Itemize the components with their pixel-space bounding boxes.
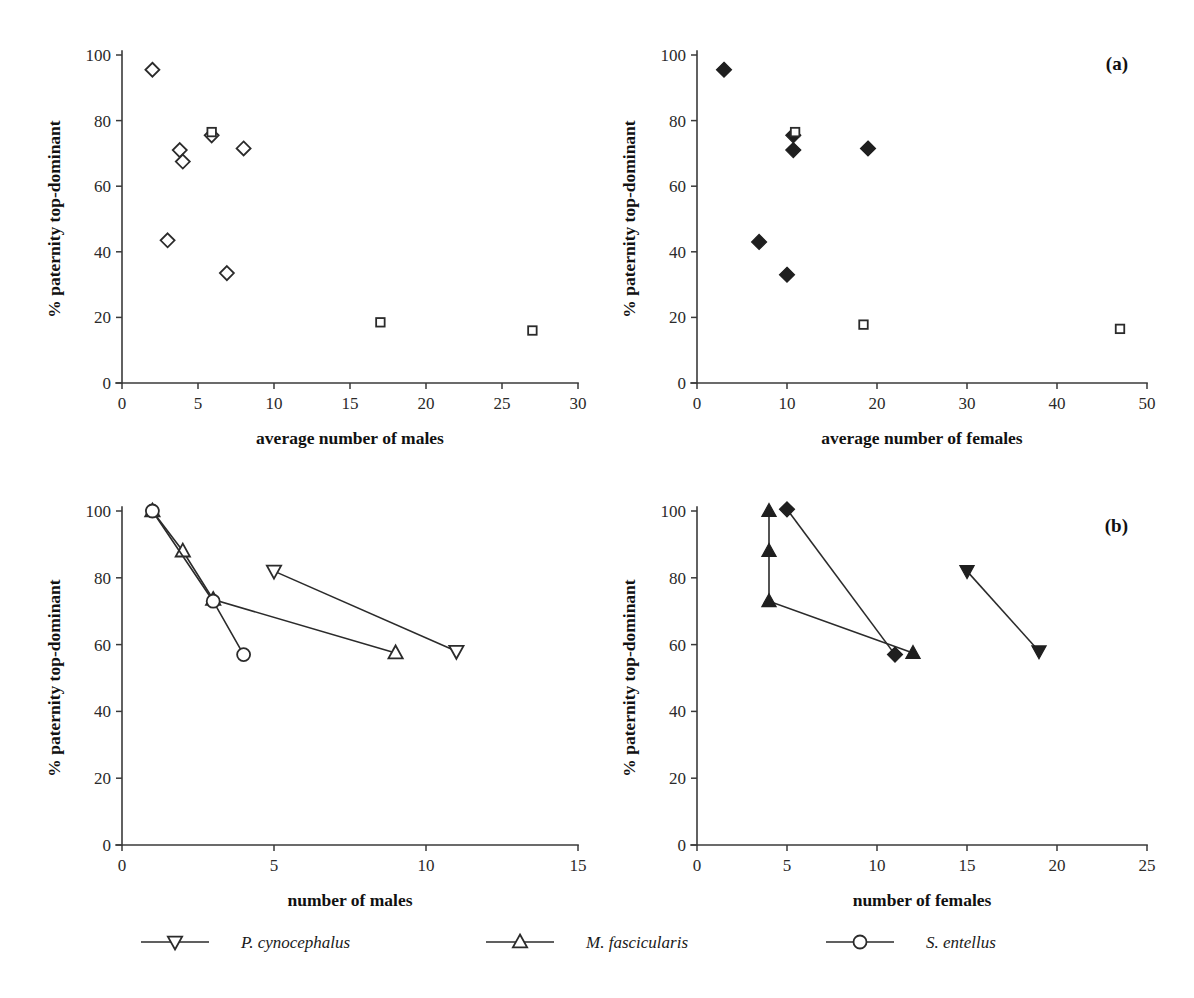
data-marker-triangle-down xyxy=(449,646,463,659)
y-tick-label: 0 xyxy=(678,374,687,393)
data-marker-square xyxy=(791,128,800,137)
chart-panel-panel-a-females: 02040608010001020304050average number of… xyxy=(619,46,1156,448)
panel-label-b: (b) xyxy=(1105,515,1128,537)
data-marker-circle xyxy=(854,936,867,949)
data-marker-diamond xyxy=(780,502,795,517)
y-tick-label: 40 xyxy=(94,702,111,721)
x-tick-label: 5 xyxy=(270,856,279,875)
y-tick-label: 20 xyxy=(669,308,686,327)
data-marker-triangle-up xyxy=(762,504,776,517)
y-axis-title: % paternity top-dominant xyxy=(44,579,64,777)
x-axis-title: average number of males xyxy=(256,428,444,448)
series-open-squares xyxy=(791,128,1124,333)
y-tick-label: 0 xyxy=(678,836,687,855)
series-polyline xyxy=(787,509,895,654)
panel-label-a: (a) xyxy=(1106,53,1128,75)
data-marker-diamond xyxy=(717,62,732,77)
y-tick-label: 80 xyxy=(94,569,111,588)
series-s-entellus xyxy=(146,505,250,662)
y-tick-label: 100 xyxy=(661,502,687,521)
data-marker-diamond xyxy=(145,63,159,77)
x-tick-label: 40 xyxy=(1049,394,1066,413)
y-tick-label: 100 xyxy=(86,502,112,521)
y-tick-label: 100 xyxy=(86,46,112,65)
y-tick-label: 100 xyxy=(661,46,687,65)
data-marker-square xyxy=(207,128,216,137)
data-marker-circle xyxy=(237,648,250,661)
data-marker-square xyxy=(528,326,537,335)
x-tick-label: 25 xyxy=(1139,856,1156,875)
y-tick-label: 40 xyxy=(669,702,686,721)
paternity-figure-svg: 020406080100051015202530average number o… xyxy=(0,0,1194,998)
y-tick-label: 60 xyxy=(669,177,686,196)
y-axis-title: % paternity top-dominant xyxy=(619,120,639,318)
x-axis-title: number of females xyxy=(853,890,992,910)
data-marker-triangle-up xyxy=(762,544,776,557)
legend-label: P. cynocephalus xyxy=(240,933,351,952)
y-tick-label: 0 xyxy=(103,836,112,855)
x-tick-label: 0 xyxy=(118,394,127,413)
x-tick-label: 30 xyxy=(570,394,587,413)
x-axis-title: average number of females xyxy=(821,428,1023,448)
x-tick-label: 15 xyxy=(959,856,976,875)
x-tick-label: 5 xyxy=(194,394,203,413)
data-marker-circle xyxy=(146,505,159,518)
data-marker-diamond xyxy=(220,266,234,280)
y-tick-label: 20 xyxy=(94,769,111,788)
x-tick-label: 15 xyxy=(342,394,359,413)
x-tick-label: 20 xyxy=(869,394,886,413)
x-tick-label: 5 xyxy=(783,856,792,875)
x-tick-label: 50 xyxy=(1139,394,1156,413)
data-marker-diamond xyxy=(752,234,767,249)
data-marker-circle xyxy=(207,595,220,608)
legend-item-m-fascicularis[interactable]: M. fascicularis xyxy=(486,933,688,952)
data-marker-diamond xyxy=(861,141,876,156)
series-m-fascicularis xyxy=(145,504,402,659)
series-filled-diamonds xyxy=(717,62,876,282)
data-marker-diamond xyxy=(173,143,187,157)
y-tick-label: 80 xyxy=(669,112,686,131)
y-tick-label: 80 xyxy=(94,112,111,131)
data-marker-triangle-up xyxy=(513,935,527,948)
data-marker-diamond xyxy=(888,647,903,662)
legend-item-s-entellus[interactable]: S. entellus xyxy=(826,933,996,952)
data-marker-square xyxy=(376,318,385,327)
legend-item-p-cynocephalus[interactable]: P. cynocephalus xyxy=(141,933,351,952)
series-open-diamonds xyxy=(145,63,250,280)
x-tick-label: 10 xyxy=(266,394,283,413)
y-tick-label: 60 xyxy=(669,636,686,655)
data-marker-square xyxy=(1116,325,1125,334)
y-tick-label: 40 xyxy=(669,243,686,262)
series-polyline xyxy=(152,511,243,655)
x-tick-label: 30 xyxy=(959,394,976,413)
figure-root: 020406080100051015202530average number o… xyxy=(0,0,1194,998)
x-tick-label: 20 xyxy=(418,394,435,413)
data-marker-triangle-down xyxy=(1032,646,1046,659)
data-marker-diamond xyxy=(780,267,795,282)
x-tick-label: 0 xyxy=(118,856,127,875)
data-marker-diamond xyxy=(786,143,801,158)
data-marker-diamond xyxy=(176,155,190,169)
legend-label: M. fascicularis xyxy=(585,933,688,952)
series-open-squares xyxy=(207,128,536,335)
y-tick-label: 40 xyxy=(94,243,111,262)
x-tick-label: 10 xyxy=(418,856,435,875)
chart-panel-panel-b-males: 020406080100051015number of males% pater… xyxy=(44,502,587,910)
y-axis-title: % paternity top-dominant xyxy=(619,579,639,777)
y-tick-label: 20 xyxy=(94,308,111,327)
x-tick-label: 10 xyxy=(779,394,796,413)
figure-legend: P. cynocephalusM. fascicularisS. entellu… xyxy=(141,933,996,952)
chart-panel-panel-a-males: 020406080100051015202530average number o… xyxy=(44,46,587,448)
y-tick-label: 80 xyxy=(669,569,686,588)
x-tick-label: 15 xyxy=(570,856,587,875)
data-marker-diamond xyxy=(161,233,175,247)
data-marker-square xyxy=(859,320,868,329)
x-axis-title: number of males xyxy=(287,890,412,910)
x-tick-label: 0 xyxy=(693,856,702,875)
chart-panel-panel-b-females: 0204060801000510152025number of females%… xyxy=(619,502,1156,910)
y-axis-title: % paternity top-dominant xyxy=(44,120,64,318)
series-s-entellus xyxy=(780,502,903,662)
series-polyline xyxy=(152,511,395,653)
data-marker-triangle-down xyxy=(267,566,281,579)
x-tick-label: 20 xyxy=(1049,856,1066,875)
